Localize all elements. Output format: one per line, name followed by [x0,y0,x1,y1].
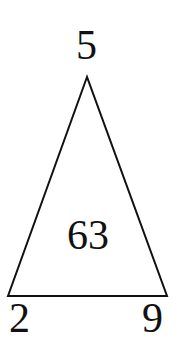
center-value: 63 [67,214,109,256]
top-vertex-label: 5 [76,24,97,66]
triangle-outline [8,77,167,296]
triangle-puzzle-diagram: 5 63 2 9 [0,0,194,351]
bottom-left-vertex-label: 2 [9,297,30,339]
bottom-right-vertex-label: 9 [142,297,163,339]
